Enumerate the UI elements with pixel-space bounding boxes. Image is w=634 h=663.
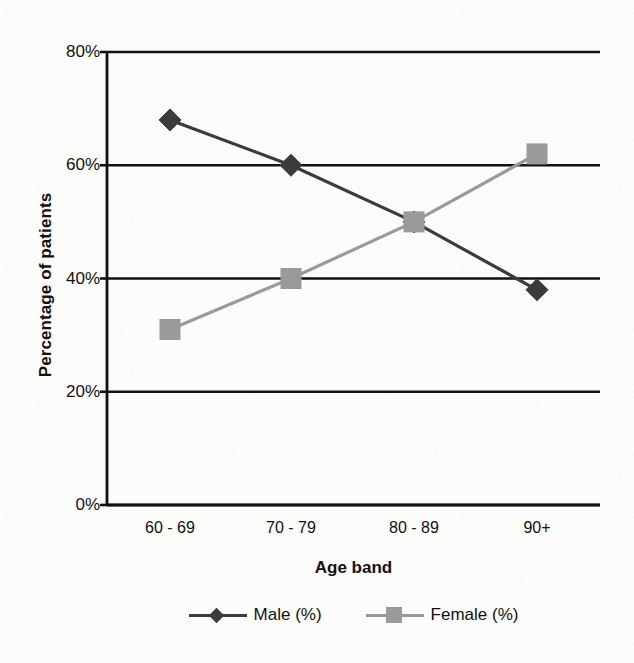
chart-container: 0%20%40%60%80% Percentage of patients 60… [0,0,634,663]
legend-label-female: Female (%) [431,605,519,625]
legend-swatch-male [189,607,247,623]
legend-label-male: Male (%) [254,605,322,625]
x-axis-tick-label: 90+ [467,519,607,537]
x-axis-tick-label: 80 - 89 [344,519,484,537]
x-axis-tick-label: 70 - 79 [221,519,361,537]
x-axis-tick-label: 60 - 69 [100,519,240,537]
legend-marker-square-icon [386,607,402,623]
legend-entry-female[interactable]: Female (%) [366,605,519,625]
x-axis-title: Age band [107,558,600,578]
legend-swatch-female [366,607,424,623]
legend-entry-male[interactable]: Male (%) [189,605,322,625]
legend-marker-diamond-icon [208,607,224,623]
chart-legend: Male (%)Female (%) [107,605,600,625]
